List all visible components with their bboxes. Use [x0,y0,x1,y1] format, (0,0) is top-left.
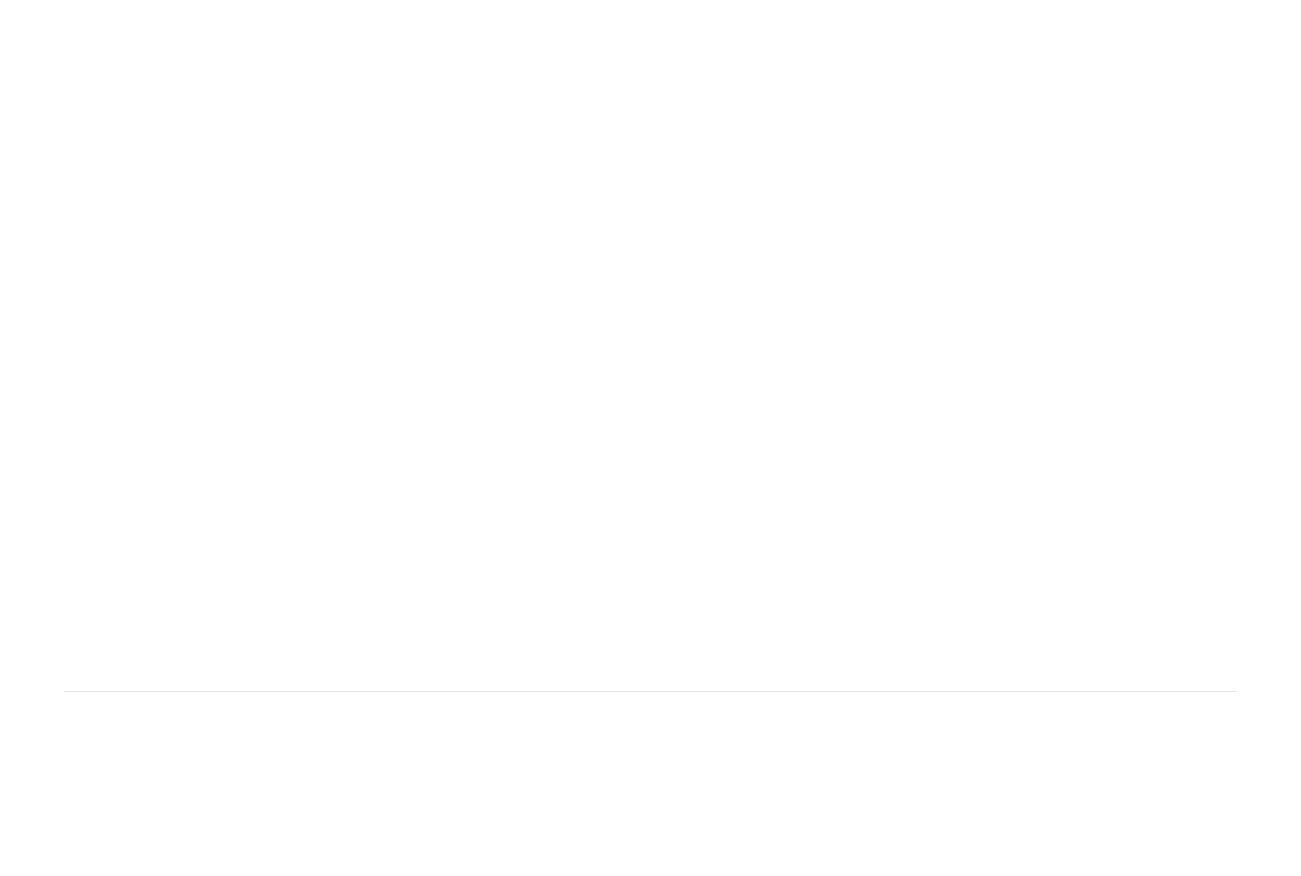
plot-area [64,40,1232,691]
bar-series [64,40,1232,691]
skyscraper-height-chart [0,0,1301,876]
x-axis-baseline [64,691,1236,692]
